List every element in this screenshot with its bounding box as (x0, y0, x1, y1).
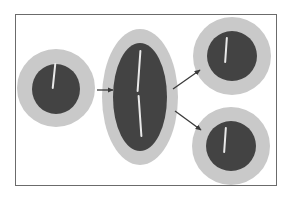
arrow-layer (0, 0, 292, 199)
arrow-enlarged-to-daughter-bottom (175, 111, 201, 130)
arrow-enlarged-to-daughter-top (173, 70, 200, 89)
cell-division-figure: Cell division diagram (0, 0, 292, 199)
